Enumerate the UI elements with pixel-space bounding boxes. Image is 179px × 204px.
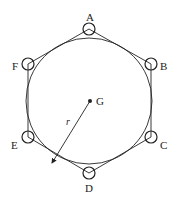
label-g: G <box>96 95 104 107</box>
label-b: B <box>160 60 167 72</box>
hexagon-diagram: A B C D E F G r <box>0 0 179 204</box>
label-a: A <box>86 11 94 23</box>
center-point <box>88 99 92 103</box>
label-radius: r <box>66 116 70 127</box>
label-e: E <box>11 139 18 151</box>
radius-line <box>52 101 90 163</box>
label-f: F <box>12 60 18 72</box>
label-d: D <box>85 182 93 194</box>
label-c: C <box>160 139 167 151</box>
